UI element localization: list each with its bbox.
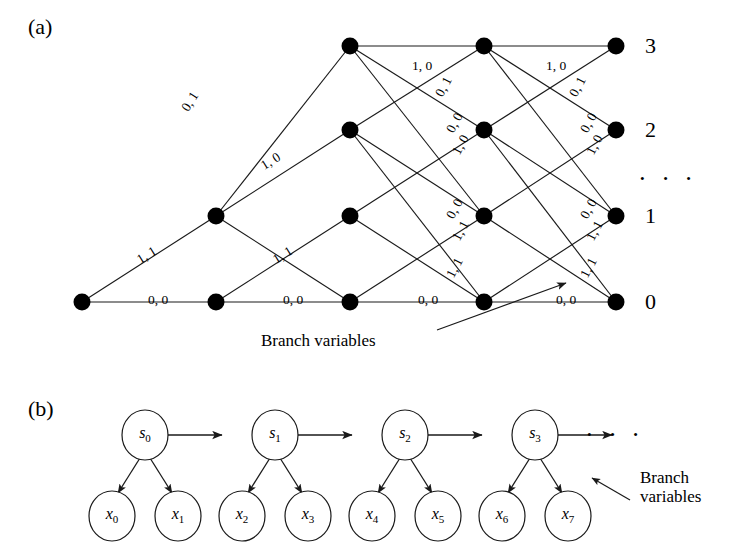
bn-obs-node-label-subscript: 7 [569,513,575,525]
bn-state-node-label: s0 [121,424,169,444]
bn-emission-edge [248,458,270,493]
bn-obs-node-label-base: x [496,505,503,522]
bn-obs-node-label: x5 [414,505,462,525]
bn-state-node-label: s1 [251,424,299,444]
bn-obs-node-label-base: x [562,505,569,522]
bn-obs-node-label: x6 [478,505,526,525]
bn-state-node-label-subscript: 3 [535,432,541,444]
bayes-net-canvas [0,0,738,542]
panel-b-label: (b) [28,396,54,422]
bn-emission-edge [410,458,432,493]
bn-obs-node-label-base: x [172,505,179,522]
bn-ellipsis: · · · [585,420,644,450]
bn-obs-node-label-subscript: 2 [243,513,249,525]
bn-obs-node-label-subscript: 5 [439,513,445,525]
bn-obs-node-label-subscript: 0 [113,513,119,525]
bn-state-node-label-subscript: 1 [275,432,281,444]
bn-obs-node-label-base: x [236,505,243,522]
bn-emission-edge [378,458,400,493]
bn-obs-node-label: x1 [154,505,202,525]
bn-obs-node-label-subscript: 4 [373,513,379,525]
bn-state-node-label: s3 [511,424,559,444]
bn-emission-edge [508,458,530,493]
bn-obs-node-label-base: x [432,505,439,522]
bn-obs-node-label: x4 [348,505,396,525]
bn-obs-node-label-subscript: 6 [503,513,509,525]
figure-root: (a) 3 2 1 0 · · · 0, 11, 01, 10, 01, 00,… [0,0,738,542]
branch-variables-line-2: variables [640,487,701,506]
branch-variables-pointer-b [592,478,630,500]
bn-state-node-label-subscript: 2 [405,432,411,444]
bn-obs-node-label: x0 [88,505,136,525]
bn-state-node-label-subscript: 0 [145,432,151,444]
bn-obs-node-label: x3 [284,505,332,525]
branch-variables-line-1: Branch [640,468,701,487]
bn-state-node-label: s2 [381,424,429,444]
bn-obs-node-label-base: x [106,505,113,522]
branch-variables-annotation-b: Branch variables [640,468,701,506]
bn-obs-node-label-subscript: 1 [179,513,185,525]
bn-emission-edge [280,458,302,493]
bn-emission-edge [150,458,172,493]
bn-obs-node-label: x7 [544,505,592,525]
bn-obs-node-label-subscript: 3 [309,513,315,525]
bn-emission-edge [118,458,140,493]
bn-emission-edge [540,458,562,493]
bn-obs-node-label-base: x [302,505,309,522]
bn-obs-node-label-base: x [366,505,373,522]
bn-obs-node-label: x2 [218,505,266,525]
